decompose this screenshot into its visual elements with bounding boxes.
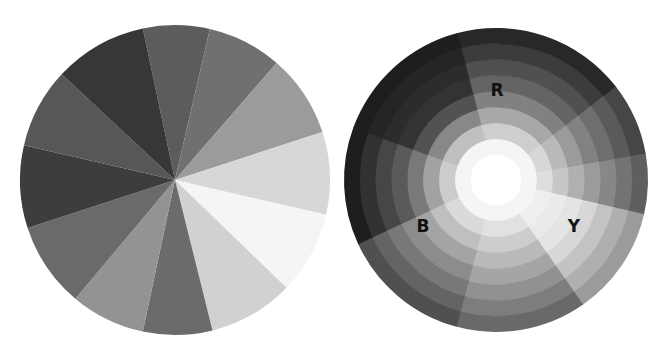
tone-ring-segment — [551, 167, 569, 197]
color-wheels-figure: R B Y — [0, 0, 671, 358]
tone-ring-segment — [567, 165, 585, 201]
tone-ring-segment — [582, 162, 601, 204]
hue-color-wheel — [20, 25, 330, 335]
tone-ring-segment — [598, 159, 617, 208]
label-yellow: Y — [567, 216, 581, 236]
tonal-color-wheel — [344, 28, 648, 332]
tone-ring-segment — [536, 170, 554, 193]
white-center — [471, 155, 522, 206]
label-blue: B — [417, 216, 430, 236]
label-red: R — [490, 80, 503, 100]
